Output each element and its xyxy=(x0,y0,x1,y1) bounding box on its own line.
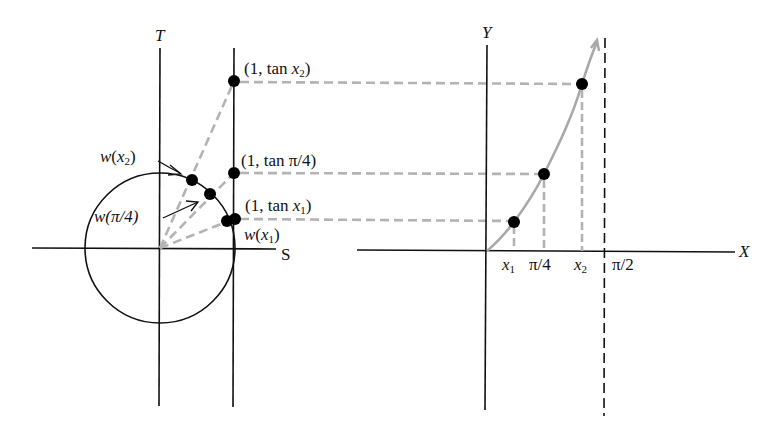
label-w-x1: w(x1) xyxy=(244,226,280,245)
label-text: (1, tan xyxy=(245,196,293,215)
y-axis-label: Y xyxy=(482,24,491,41)
asymptote-pi2 xyxy=(604,38,605,416)
point-w-pi4 xyxy=(204,188,216,200)
s-axis xyxy=(32,248,276,249)
label-text: ) xyxy=(305,59,311,78)
label-w-x2: w(x2) xyxy=(100,148,136,167)
y-axis xyxy=(485,45,487,410)
right-panel xyxy=(357,38,735,416)
point-w-x2 xyxy=(186,174,198,186)
point-graph-x2 xyxy=(576,78,588,90)
x-axis-label: X xyxy=(739,243,749,260)
label-tan-pi4: (1, tan π/4) xyxy=(241,152,316,169)
tick-var: x xyxy=(574,255,582,274)
point-tan-pi4 xyxy=(228,167,240,179)
proj-x1 xyxy=(240,219,513,221)
point-graph-x1 xyxy=(508,216,520,228)
tick-x1: x1 xyxy=(502,256,515,275)
tick-sub: 1 xyxy=(510,263,516,275)
label-sub: 1 xyxy=(269,233,275,245)
label-tan-x2: (1, tan x2) xyxy=(244,60,310,79)
label-text: ) xyxy=(306,196,312,215)
label-w-pi4: w(π/4) xyxy=(94,208,138,225)
label-fn: w xyxy=(244,225,255,244)
point-w-x1 xyxy=(221,215,233,227)
t-axis-label: T xyxy=(155,27,164,44)
label-var: x xyxy=(261,225,269,244)
tick-var: x xyxy=(502,255,510,274)
label-sub: 2 xyxy=(125,155,131,167)
tan-curve xyxy=(487,42,597,251)
proj-pi4 xyxy=(240,173,544,174)
label-tan-x1: (1, tan x1) xyxy=(245,197,311,216)
left-panel xyxy=(32,48,582,407)
label-var: x xyxy=(117,147,125,166)
s-axis-label: S xyxy=(281,246,290,263)
label-text: (1, tan xyxy=(244,59,292,78)
x-axis xyxy=(357,250,735,252)
point-graph-pi4 xyxy=(538,168,550,180)
tick-sub: 2 xyxy=(582,263,588,275)
ray-pi4 xyxy=(160,173,234,248)
label-fn: w xyxy=(100,147,111,166)
tangent-line-s1 xyxy=(233,48,234,407)
proj-x2 xyxy=(240,82,582,84)
tick-x2: x2 xyxy=(574,256,587,275)
tick-pi4: π/4 xyxy=(529,256,551,273)
tick-pi2: π/2 xyxy=(612,256,634,273)
point-tan-x2 xyxy=(228,75,240,87)
t-axis xyxy=(159,48,160,406)
